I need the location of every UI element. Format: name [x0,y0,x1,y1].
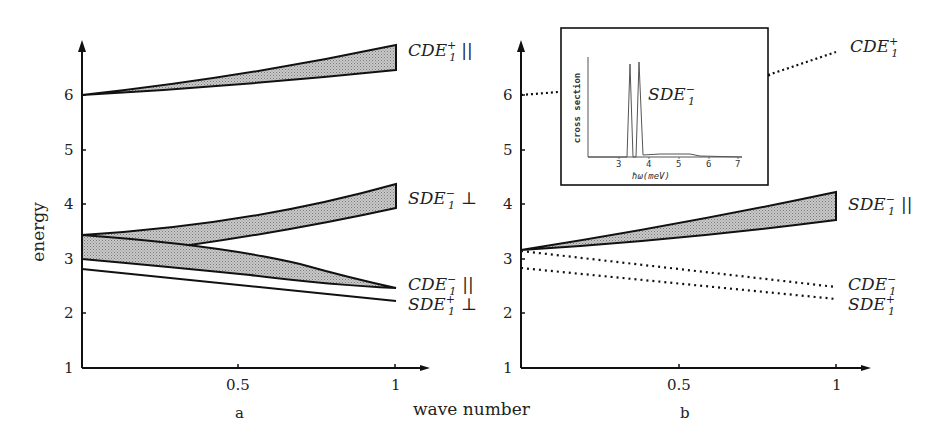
ytick-4: 4 [64,195,74,213]
xtick-0.5: 0.5 [226,376,250,394]
panel-b: 1 2 3 4 5 6 0.5 1 CDE+1 SDE−1|| CDE−1 SD… [503,28,912,422]
label-b-cde-plus: CDE+1 [850,35,898,60]
ytick-6: 6 [503,86,513,104]
line-b-cde-plus-right [768,52,836,75]
ytick-1: 1 [64,359,74,377]
ytick-2: 2 [64,304,74,322]
xtick-1: 1 [832,376,842,394]
label-a-cde-plus: CDE+1|| [408,39,473,64]
panel-b-caption: b [680,404,690,422]
panel-a-caption: a [235,404,244,422]
inset-xtick-4: 4 [646,159,651,169]
figure: 1 2 3 4 5 6 0.5 1 CDE+1|| SDE−1⊥ CDE−1||… [0,0,945,446]
inset-xtick-5: 5 [676,159,681,169]
label-a-sde-minus: SDE−1⊥ [408,187,477,212]
ytick-5: 5 [64,141,74,159]
label-a-sde-plus: SDE+1⊥ [408,293,477,318]
ytick-3: 3 [503,250,513,268]
xtick-0.5: 0.5 [667,376,691,394]
ytick-1: 1 [503,359,513,377]
inset-xlabel: ħω(meV) [632,171,670,181]
line-b-sde-plus [521,268,836,299]
line-b-cde-minus [521,251,836,287]
y-axis-arrow-icon [517,40,525,52]
inset-cross-section: 3 4 5 6 7 ħω(meV) cross section SDE−1 [561,28,768,185]
inset-xtick-7: 7 [735,159,740,169]
ytick-3: 3 [64,250,74,268]
panel-a: 1 2 3 4 5 6 0.5 1 CDE+1|| SDE−1⊥ CDE−1||… [64,39,477,422]
line-b-cde-plus-left [521,92,558,95]
band-cde-plus [82,45,396,95]
ytick-6: 6 [64,86,74,104]
label-b-sde-plus: SDE+1 [848,293,895,318]
xtick-1: 1 [391,376,401,394]
ytick-5: 5 [503,141,513,159]
x-axis-title: wave number [413,399,531,419]
x-axis-arrow-icon [420,365,430,371]
ytick-4: 4 [503,195,513,213]
y-axis-arrow-icon [78,40,86,52]
label-b-sde-minus: SDE−1|| [848,193,912,218]
inset-xtick-3: 3 [616,159,621,169]
y-axis-title: energy [28,202,48,262]
x-axis-arrow-icon [861,365,871,371]
band-cde-minus [82,235,396,288]
inset-xtick-6: 6 [706,159,711,169]
inset-ylabel: cross section [572,73,582,143]
ytick-2: 2 [503,304,513,322]
band-b-sde-minus [521,192,836,250]
